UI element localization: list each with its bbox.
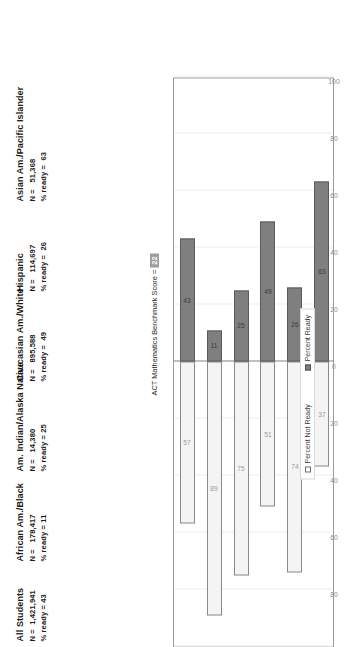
group-n-label: N =: [28, 189, 37, 201]
axis-tick-label: 80: [330, 590, 338, 597]
group-n: N = 14,380: [27, 362, 38, 471]
axis-tick-labels: 10080604020020406080100: [334, 77, 354, 647]
gridline: [174, 531, 333, 532]
group-header-caucasian-am-white: Caucasian Am./White N = 895,588 % ready …: [14, 288, 49, 381]
axis-tick-label: 20: [330, 419, 338, 426]
group-n-label: N =: [28, 549, 37, 561]
group-name: Asian Am./Pacific Islander: [14, 86, 27, 201]
group-n-label: N =: [28, 629, 37, 641]
bar-segment-ready: 49: [260, 221, 275, 361]
group-ready-value: 43: [39, 594, 48, 603]
group-header-hispanic: Hispanic N = 114,697 % ready = 26: [14, 241, 49, 291]
gridline: [174, 303, 333, 304]
bar-value-label: 37: [318, 410, 325, 417]
axis-tick-label: 20: [330, 305, 338, 312]
bar-group: 5149: [260, 76, 275, 646]
group-ready-label: % ready =: [39, 604, 48, 641]
benchmark-label: ACT Mathematics Benchmark Score =: [150, 269, 159, 395]
group-ready-label: % ready =: [39, 164, 48, 201]
bar-value-label: 25: [237, 322, 244, 329]
bar-value-label: 26: [291, 320, 298, 327]
legend-swatch-ready-icon: [305, 364, 311, 370]
group-n-label: N =: [28, 459, 37, 471]
group-n: N = 114,697: [27, 241, 38, 291]
group-ready-value: 25: [39, 424, 48, 433]
group-ready: % ready = 43: [38, 587, 49, 641]
bar-group: 3763: [314, 76, 329, 646]
bar-value-label: 11: [211, 342, 218, 349]
group-header-african-am-black: African Am./Black N = 178,417 % ready = …: [14, 483, 49, 561]
group-n-label: N =: [28, 279, 37, 291]
group-ready-label: % ready =: [39, 344, 48, 381]
group-n-value: 895,588: [28, 334, 37, 362]
bar-segment-not-ready: 75: [234, 361, 249, 575]
benchmark-value-badge: 22: [150, 253, 159, 267]
bar-value-label: 74: [291, 463, 298, 470]
chart-legend: Percent Not Ready Percent Ready: [300, 308, 315, 479]
group-n: N = 895,588: [27, 288, 38, 381]
group-name: African Am./Black: [14, 483, 27, 561]
gridline: [174, 132, 333, 133]
axis-tick-label: 40: [330, 476, 338, 483]
axis-tick-label: 60: [330, 191, 338, 198]
bar-segment-ready: 25: [234, 290, 249, 361]
chart-canvas: All Students N = 1,421,941 % ready = 43 …: [0, 0, 354, 647]
bar-segment-not-ready: 37: [314, 361, 329, 466]
group-ready: % ready = 26: [38, 241, 49, 291]
gridline: [174, 588, 333, 589]
group-name: Hispanic: [14, 241, 27, 291]
bar-segment-ready: 63: [314, 181, 329, 361]
gridline: [174, 75, 333, 76]
group-n-value: 14,380: [28, 428, 37, 452]
group-n: N = 1,421,941: [27, 587, 38, 641]
group-n: N = 51,368: [27, 86, 38, 201]
group-ready: % ready = 11: [38, 483, 49, 561]
axis-tick-label: 60: [330, 533, 338, 540]
group-name: All Students: [14, 587, 27, 641]
group-ready: % ready = 49: [38, 288, 49, 381]
bar-group: 5743: [180, 76, 195, 646]
axis-tick-label: 0: [332, 362, 336, 369]
group-n: N = 178,417: [27, 483, 38, 561]
group-header-am-indian-alaska-native: Am. Indian/Alaska Native N = 14,380 % re…: [14, 362, 49, 471]
group-n-label: N =: [28, 369, 37, 381]
group-name: Caucasian Am./White: [14, 288, 27, 381]
legend-label-not-ready: Percent Not Ready: [304, 404, 311, 463]
group-ready-value: 26: [39, 241, 48, 250]
group-ready: % ready = 63: [38, 86, 49, 201]
bar-segment-ready: 43: [180, 238, 195, 361]
bar-segment-not-ready: 89: [207, 361, 222, 615]
benchmark-callout: ACT Mathematics Benchmark Score =22: [150, 253, 159, 395]
group-n-value: 178,417: [28, 514, 37, 542]
group-ready-value: 11: [39, 514, 48, 522]
legend-item-ready: Percent Ready: [304, 315, 311, 370]
gridline: [174, 189, 333, 190]
group-header-all-students: All Students N = 1,421,941 % ready = 43: [14, 587, 49, 641]
group-n-value: 1,421,941: [28, 590, 37, 625]
group-ready-value: 49: [39, 331, 48, 340]
group-ready-label: % ready =: [39, 254, 48, 291]
bar-value-label: 89: [211, 484, 218, 491]
bar-value-label: 75: [237, 464, 244, 471]
axis-tick-label: 80: [330, 134, 338, 141]
axis-tick-label: 100: [328, 77, 339, 84]
group-ready-label: % ready =: [39, 434, 48, 471]
group-n-value: 51,368: [28, 158, 37, 182]
group-ready-label: % ready =: [39, 524, 48, 561]
bar-value-label: 63: [318, 268, 325, 275]
bar-group: 7525: [234, 76, 249, 646]
bar-group: 8911: [207, 76, 222, 646]
legend-item-not-ready: Percent Not Ready: [304, 404, 311, 472]
bar-segment-not-ready: 51: [260, 361, 275, 506]
axis-tick-label: 40: [330, 248, 338, 255]
bar-value-label: 43: [184, 296, 191, 303]
gridline: [174, 246, 333, 247]
group-name: Am. Indian/Alaska Native: [14, 362, 27, 471]
bar-value-label: 51: [264, 430, 271, 437]
legend-label-ready: Percent Ready: [304, 315, 311, 361]
group-n-value: 114,697: [28, 244, 37, 272]
group-header-asian-am-pacific-islander: Asian Am./Pacific Islander N = 51,368 % …: [14, 86, 49, 201]
group-ready-value: 63: [39, 151, 48, 160]
bar-segment-ready: 11: [207, 330, 222, 361]
legend-swatch-not-ready-icon: [305, 466, 311, 472]
